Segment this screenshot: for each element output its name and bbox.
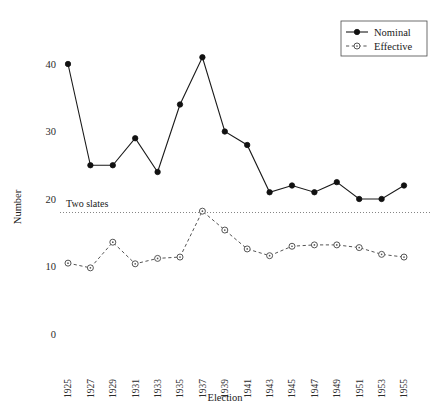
x-tick-label: 1949 (332, 379, 342, 398)
legend-label-effective: Effective (374, 41, 413, 52)
x-tick-label: 1935 (175, 379, 185, 398)
data-point-nominal[interactable] (177, 102, 182, 107)
data-point-effective-center (179, 256, 181, 258)
x-tick-label: 1943 (265, 379, 275, 398)
y-tick-label: 0 (51, 329, 56, 340)
series-line-effective (68, 211, 404, 268)
data-point-effective-center (224, 229, 226, 231)
x-tick-label: 1955 (399, 379, 409, 398)
x-tick-label: 1929 (108, 379, 118, 398)
legend-label-nominal: Nominal (374, 27, 411, 38)
data-point-nominal[interactable] (88, 163, 93, 168)
chart-legend[interactable]: NominalEffective (341, 21, 427, 56)
data-point-effective-center (67, 262, 69, 264)
data-point-nominal[interactable] (155, 169, 160, 174)
x-tick-label: 1925 (63, 379, 73, 398)
data-point-effective-center (202, 210, 204, 212)
x-tick-label: 1933 (153, 379, 163, 398)
y-axis-tick-labels: 010203040 (46, 59, 57, 340)
y-axis-title: Number (12, 189, 23, 224)
data-point-effective-center (291, 245, 293, 247)
data-point-effective-center (90, 267, 92, 269)
data-point-nominal[interactable] (133, 136, 138, 141)
data-series-group (65, 55, 407, 271)
data-point-nominal[interactable] (312, 190, 317, 195)
series-line-nominal (68, 57, 404, 199)
x-axis-title: Election (208, 392, 244, 403)
data-point-effective-center (269, 255, 271, 257)
legend-marker-effective-center (356, 45, 358, 47)
data-point-effective-center (358, 247, 360, 249)
x-tick-label: 1927 (86, 379, 96, 398)
y-tick-label: 40 (46, 59, 57, 70)
x-tick-label: 1941 (243, 379, 253, 398)
data-point-nominal[interactable] (267, 190, 272, 195)
chart-container: 010203040 192519271929193119331935193719… (0, 0, 434, 413)
annotation-group: Two slates (66, 198, 108, 209)
data-point-effective-center (336, 244, 338, 246)
x-tick-label: 1951 (355, 379, 365, 398)
data-point-effective-center (246, 248, 248, 250)
data-point-effective-center (134, 263, 136, 265)
x-tick-label: 1953 (377, 379, 387, 398)
x-tick-label: 1931 (131, 379, 141, 398)
y-tick-label: 20 (46, 194, 57, 205)
data-point-effective-center (314, 244, 316, 246)
data-point-nominal[interactable] (357, 196, 362, 201)
data-point-nominal[interactable] (334, 179, 339, 184)
data-point-nominal[interactable] (65, 61, 70, 66)
line-chart-figure: 010203040 192519271929193119331935193719… (0, 0, 434, 413)
two-slates-label: Two slates (66, 198, 108, 209)
data-point-nominal[interactable] (289, 183, 294, 188)
data-point-nominal[interactable] (401, 183, 406, 188)
y-tick-label: 10 (46, 261, 57, 272)
data-point-nominal[interactable] (379, 196, 384, 201)
x-tick-label: 1947 (310, 379, 320, 398)
x-tick-label: 1945 (287, 379, 297, 398)
data-point-nominal[interactable] (245, 142, 250, 147)
y-tick-label: 30 (46, 126, 57, 137)
data-point-effective-center (403, 256, 405, 258)
x-tick-label: 1937 (198, 379, 208, 398)
legend-marker-nominal (354, 29, 359, 34)
data-point-effective-center (381, 254, 383, 256)
data-point-nominal[interactable] (200, 55, 205, 60)
data-point-nominal[interactable] (222, 129, 227, 134)
data-point-effective-center (157, 258, 159, 260)
data-point-nominal[interactable] (110, 163, 115, 168)
data-point-effective-center (112, 241, 114, 243)
